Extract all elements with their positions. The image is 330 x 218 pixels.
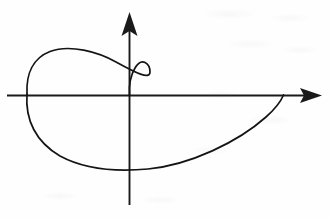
- figure-canvas: [0, 0, 330, 218]
- x-axis: [7, 88, 322, 103]
- inner-loop-path: [27, 49, 150, 96]
- outer-curve-path: [27, 94, 284, 170]
- y-axis: [122, 12, 138, 205]
- curve-figure: [0, 0, 330, 218]
